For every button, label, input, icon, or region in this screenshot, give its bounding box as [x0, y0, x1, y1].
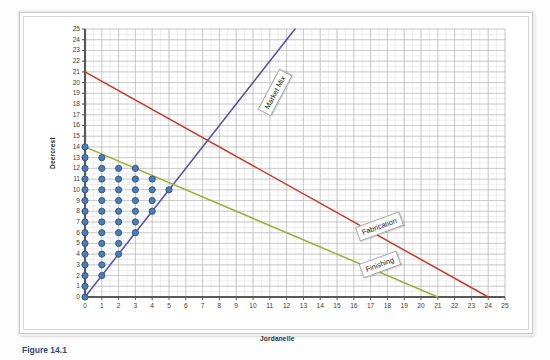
y-tick-label: 13 [63, 154, 80, 161]
chart-svg [62, 25, 510, 313]
figure-container: 0123456789101112131415161718192021222324… [0, 0, 550, 360]
x-tick-label: 3 [127, 302, 143, 309]
y-tick-label: 12 [63, 164, 80, 171]
chart-frame-inner: 0123456789101112131415161718192021222324… [23, 16, 529, 330]
y-tick-label: 17 [63, 111, 80, 118]
x-tick-label: 9 [228, 302, 244, 309]
x-tick-label: 5 [161, 302, 177, 309]
y-tick-label: 15 [63, 132, 80, 139]
x-tick-label: 1 [94, 302, 110, 309]
x-tick-label: 17 [363, 302, 379, 309]
x-tick-label: 11 [262, 302, 278, 309]
y-axis-title: Deercrest [49, 137, 56, 169]
chart-frame: 0123456789101112131415161718192021222324… [19, 12, 533, 334]
x-tick-label: 21 [430, 302, 446, 309]
x-tick-label: 12 [279, 302, 295, 309]
x-tick-label: 4 [144, 302, 160, 309]
y-tick-label: 22 [63, 57, 80, 64]
minor-gridlines [85, 29, 505, 297]
y-tick-label: 6 [63, 229, 80, 236]
y-tick-label: 25 [63, 25, 80, 32]
y-tick-label: 11 [63, 175, 80, 182]
x-tick-label: 22 [447, 302, 463, 309]
y-tick-label: 19 [63, 89, 80, 96]
y-tick-label: 20 [63, 79, 80, 86]
x-axis-title: Jordanelle [260, 335, 295, 342]
figure-caption: Figure 14.1 [22, 345, 67, 355]
plot-area [62, 25, 510, 313]
y-tick-label: 1 [63, 282, 80, 289]
y-tick-label: 3 [63, 261, 80, 268]
y-tick-label: 7 [63, 218, 80, 225]
x-tick-label: 10 [245, 302, 261, 309]
y-tick-label: 10 [63, 186, 80, 193]
y-tick-label: 21 [63, 68, 80, 75]
x-tick-label: 18 [379, 302, 395, 309]
y-tick-label: 5 [63, 239, 80, 246]
y-tick-label: 9 [63, 197, 80, 204]
x-tick-label: 0 [77, 302, 93, 309]
x-tick-label: 14 [312, 302, 328, 309]
y-tick-label: 0 [63, 293, 80, 300]
x-tick-label: 7 [195, 302, 211, 309]
y-tick-label: 23 [63, 46, 80, 53]
x-tick-label: 23 [463, 302, 479, 309]
y-tick-label: 14 [63, 143, 80, 150]
y-tick-label: 24 [63, 36, 80, 43]
y-tick-label: 2 [63, 272, 80, 279]
x-tick-label: 6 [178, 302, 194, 309]
x-tick-label: 20 [413, 302, 429, 309]
y-tick-label: 8 [63, 207, 80, 214]
x-tick-label: 19 [396, 302, 412, 309]
y-tick-label: 4 [63, 250, 80, 257]
x-tick-label: 2 [111, 302, 127, 309]
x-tick-label: 15 [329, 302, 345, 309]
x-tick-label: 13 [295, 302, 311, 309]
x-tick-label: 8 [211, 302, 227, 309]
y-tick-label: 18 [63, 100, 80, 107]
y-tick-label: 16 [63, 121, 80, 128]
x-tick-label: 16 [346, 302, 362, 309]
x-tick-label: 24 [480, 302, 496, 309]
x-tick-label: 25 [497, 302, 513, 309]
